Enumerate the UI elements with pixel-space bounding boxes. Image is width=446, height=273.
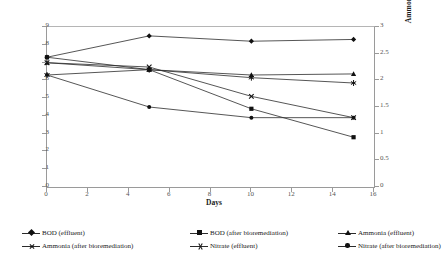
y-tick-mark-left xyxy=(42,150,46,151)
legend-marker-x-icon xyxy=(22,242,40,250)
legend-marker-square-icon xyxy=(190,229,208,237)
chart-legend: BOD (effluent)BOD (after bioremediation)… xyxy=(22,228,412,251)
series-nitrate-after-bioremediation xyxy=(45,73,356,120)
legend-marker-star-icon xyxy=(190,242,208,250)
y-tick-left-7: 7 xyxy=(9,57,49,65)
legend-label: Ammonia (after bioremediation) xyxy=(42,241,133,251)
legend-label: Nitrate (effluent) xyxy=(210,241,258,251)
y-tick-mark-right xyxy=(375,26,379,27)
series-nitrate-effluent xyxy=(44,67,356,86)
y-tick-mark-left xyxy=(42,26,46,27)
y-tick-left-5: 5 xyxy=(9,92,49,100)
y-tick-right-3: 3 xyxy=(380,21,420,29)
y-tick-left-9: 9 xyxy=(9,21,49,29)
y-tick-mark-left xyxy=(42,44,46,45)
y-tick-right-0.5: 0.5 xyxy=(380,154,420,162)
y-tick-right-2: 2 xyxy=(380,74,420,82)
data-series-layer xyxy=(47,27,374,187)
legend-item-nitrate-after-bioremediation[interactable]: Nitrate (after bioremediation) xyxy=(338,241,446,251)
y-tick-mark-left xyxy=(42,186,46,187)
x-tick-mark xyxy=(87,188,88,192)
x-tick-mark xyxy=(169,188,170,192)
legend-marker-circle-icon xyxy=(338,242,356,250)
x-tick-mark xyxy=(46,188,47,192)
series-bod-after-bioremediation xyxy=(45,55,356,139)
x-axis-label: Days xyxy=(0,198,428,207)
y-tick-mark-left xyxy=(42,62,46,63)
y-tick-left-8: 8 xyxy=(9,39,49,47)
legend-item-bod-after-bioremediation[interactable]: BOD (after bioremediation) xyxy=(190,228,338,238)
series-ammonia-after-bioremediation xyxy=(45,60,356,120)
legend-label: Nitrate (after bioremediation) xyxy=(358,241,441,251)
legend-label: BOD (effluent) xyxy=(42,228,85,238)
y-tick-mark-right xyxy=(375,79,379,80)
x-tick-mark xyxy=(332,188,333,192)
y-tick-right-0: 0 xyxy=(380,181,420,189)
x-tick-mark xyxy=(291,188,292,192)
legend-label: Ammonia (effluent) xyxy=(358,228,414,238)
y-tick-mark-left xyxy=(42,133,46,134)
y-tick-mark-right xyxy=(375,159,379,160)
y-tick-mark-left xyxy=(42,97,46,98)
x-tick-mark xyxy=(373,188,374,192)
figure-caption xyxy=(6,266,422,273)
y-tick-right-2.5: 2.5 xyxy=(380,48,420,56)
legend-marker-triangle-icon xyxy=(338,229,356,237)
legend-item-ammonia-effluent[interactable]: Ammonia (effluent) xyxy=(338,228,446,238)
y-tick-mark-left xyxy=(42,168,46,169)
legend-item-ammonia-after-bioremediation[interactable]: Ammonia (after bioremediation) xyxy=(22,241,190,251)
y-tick-left-4: 4 xyxy=(9,110,49,118)
y-tick-mark-right xyxy=(375,53,379,54)
y-tick-mark-right xyxy=(375,133,379,134)
plot-area xyxy=(46,26,375,188)
y-tick-right-1.5: 1.5 xyxy=(380,101,420,109)
legend-label: BOD (after bioremediation) xyxy=(210,228,288,238)
y-tick-mark-left xyxy=(42,79,46,80)
x-tick-mark xyxy=(128,188,129,192)
y-tick-mark-right xyxy=(375,106,379,107)
legend-marker-diamond-icon xyxy=(22,229,40,237)
series-bod-effluent xyxy=(44,33,356,60)
legend-item-bod-effluent[interactable]: BOD (effluent) xyxy=(22,228,190,238)
y-tick-left-0: 0 xyxy=(9,181,49,189)
y-tick-left-6: 6 xyxy=(9,74,49,82)
x-tick-mark xyxy=(250,188,251,192)
y-tick-mark-right xyxy=(375,186,379,187)
y-tick-left-1: 1 xyxy=(9,163,49,171)
y-tick-mark-left xyxy=(42,115,46,116)
y-tick-left-2: 2 xyxy=(9,145,49,153)
y-tick-right-1: 1 xyxy=(380,128,420,136)
y-tick-left-3: 3 xyxy=(9,128,49,136)
x-tick-mark xyxy=(210,188,211,192)
legend-item-nitrate-effluent[interactable]: Nitrate (effluent) xyxy=(190,241,338,251)
